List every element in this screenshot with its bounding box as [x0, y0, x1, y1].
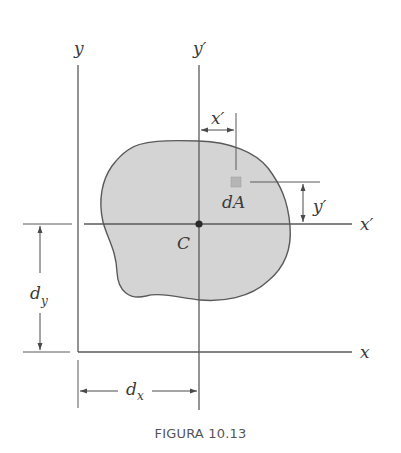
y-prime-axis-label: y′	[192, 38, 207, 58]
moment-of-inertia-parallel-axis-diagram: y y′ x x′ C dA x′ y′ d y d x	[0, 0, 401, 453]
x-axis-label: x	[360, 342, 370, 362]
dy-label: d y	[30, 283, 48, 308]
x-prime-axis-label: x′	[360, 214, 374, 234]
dx-label: d x	[126, 379, 144, 403]
centroid-label: C	[177, 233, 190, 253]
y-prime-dimension-label: y′	[312, 196, 327, 216]
svg-text:d: d	[30, 283, 41, 303]
y-axis-label: y	[73, 38, 84, 58]
figure-caption: FIGURA 10.13	[0, 426, 401, 441]
area-shape	[101, 141, 290, 301]
svg-text:d: d	[126, 379, 137, 399]
svg-text:y: y	[40, 294, 48, 308]
svg-text:x: x	[137, 389, 144, 403]
area-element-dA	[231, 177, 241, 187]
x-prime-dimension-label: x′	[211, 108, 225, 128]
centroid-point	[195, 220, 202, 227]
area-element-label: dA	[222, 192, 245, 212]
